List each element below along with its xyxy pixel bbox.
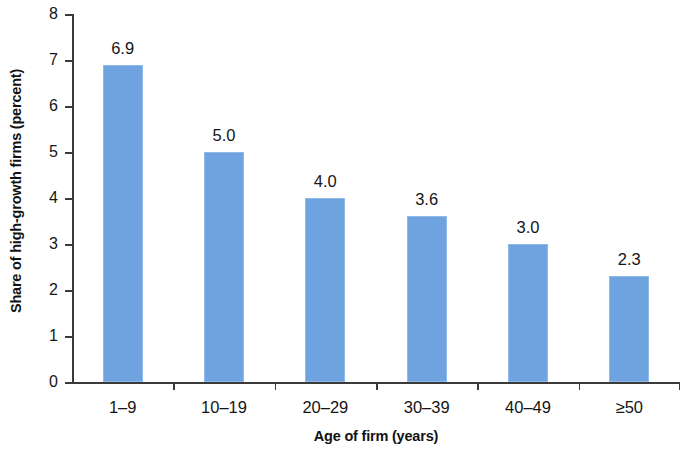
y-axis-tick-label: 8: [49, 5, 58, 23]
bar-value-label: 4.0: [314, 172, 337, 191]
plot-area: 012345678 6.95.04.03.63.02.3 1–910–1920–…: [72, 14, 680, 382]
x-axis-tick-label: 1–9: [109, 398, 137, 417]
bar-value-label: 5.0: [213, 126, 236, 145]
bar-value-label: 2.3: [618, 250, 641, 269]
bar: [103, 65, 143, 382]
bar: [609, 276, 649, 382]
y-axis-tick-mark: [65, 152, 72, 154]
y-axis-tick-label: 1: [49, 327, 58, 345]
x-axis-tick-mark: [477, 382, 479, 390]
bar: [407, 216, 447, 382]
x-axis-tick-label: 30–39: [404, 398, 450, 417]
y-axis-tick-mark: [65, 290, 72, 292]
y-axis-tick-label: 7: [49, 51, 58, 69]
y-axis-tick-mark: [65, 382, 72, 384]
x-axis-tick-mark: [275, 382, 277, 390]
x-axis-title: Age of firm (years): [72, 428, 680, 444]
x-axis-tick-label: 40–49: [505, 398, 551, 417]
y-axis-tick-mark: [65, 336, 72, 338]
y-axis-tick-mark: [65, 60, 72, 62]
x-axis-tick-mark: [679, 382, 681, 390]
bar-value-label: 6.9: [111, 39, 134, 58]
bar: [204, 152, 244, 382]
bar: [305, 198, 345, 382]
y-axis-tick-label: 3: [49, 235, 58, 253]
y-axis-line: [72, 14, 74, 382]
x-axis-tick-label: ≥50: [616, 398, 643, 417]
bar: [508, 244, 548, 382]
x-axis-tick-label: 10–19: [201, 398, 247, 417]
bar-chart-figure: Share of high-growth firms (percent) 012…: [0, 0, 695, 455]
bar-value-label: 3.0: [517, 218, 540, 237]
y-axis-tick-label: 4: [49, 189, 58, 207]
y-axis-title: Share of high-growth firms (percent): [4, 0, 28, 382]
y-axis-tick-label: 6: [49, 97, 58, 115]
x-axis-tick-mark: [376, 382, 378, 390]
x-axis-tick-label: 20–29: [302, 398, 348, 417]
y-axis-tick-mark: [65, 14, 72, 16]
y-axis-tick-mark: [65, 106, 72, 108]
y-axis-tick-mark: [65, 244, 72, 246]
y-axis-tick-label: 0: [49, 373, 58, 391]
y-axis-tick-mark: [65, 198, 72, 200]
y-axis-tick-label: 5: [49, 143, 58, 161]
x-axis-tick-mark: [173, 382, 175, 390]
bar-value-label: 3.6: [415, 190, 438, 209]
y-axis-tick-label: 2: [49, 281, 58, 299]
x-axis-tick-mark: [579, 382, 581, 390]
